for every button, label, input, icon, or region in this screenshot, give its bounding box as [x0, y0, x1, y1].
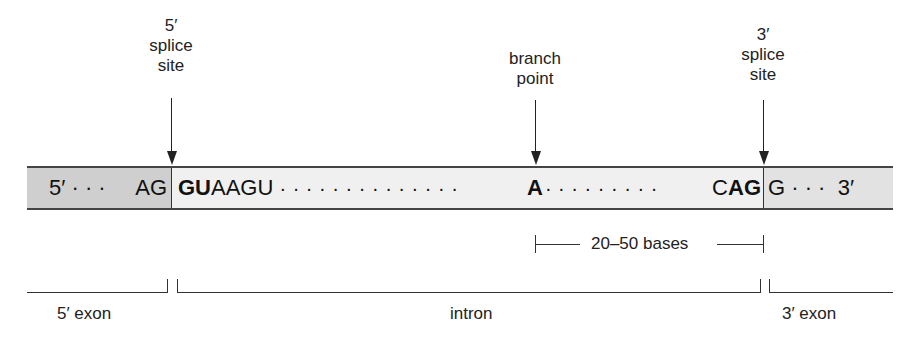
five-prime-arrow-shaft — [171, 98, 172, 154]
three-prime-junction-line — [763, 168, 765, 208]
exon-end-bases: AG — [135, 175, 169, 201]
three-prime-exon-label: 3′ exon — [782, 304, 836, 324]
intron-dots-before-branch: · · · · · · · · · · · · · · — [273, 177, 464, 200]
intron-sequence: GU AAGU · · · · · · · · · · · · · · — [178, 168, 464, 208]
branch-point-label: branch point — [490, 49, 580, 89]
label-line: 3′ — [723, 25, 803, 45]
intron-dots-after-branch: · · · · · · · · · — [545, 177, 664, 200]
acceptor-c: C — [712, 175, 728, 201]
three-prime-exon-bracket-start — [769, 279, 770, 293]
label-line: point — [490, 69, 580, 89]
five-prime-exon-bracket-end — [167, 279, 168, 293]
branch-point-adenine: A — [527, 175, 543, 201]
exon-start-base: G — [768, 175, 785, 201]
range-line-right — [717, 244, 763, 245]
five-prime-splice-site-label: 5′ splice site — [131, 16, 211, 76]
label-line: site — [723, 65, 803, 85]
five-prime-exon-sequence: 5′ · · · AG — [49, 168, 169, 208]
five-prime-exon-label: 5′ exon — [57, 304, 111, 324]
ag-acceptor-dinucleotide: AG — [728, 175, 761, 201]
pre-mrna-sequence-bar: 5′ · · · AG GU AAGU · · · · · · · · · · … — [27, 166, 893, 210]
range-label: 20–50 bases — [591, 234, 688, 254]
three-prime-arrow-head-icon — [759, 151, 769, 165]
label-line: branch — [490, 49, 580, 69]
range-end-tick — [763, 235, 764, 253]
intron-label: intron — [450, 304, 493, 324]
branch-point-base-wrap: A · · · · · · · · · — [527, 168, 664, 208]
label-line: 5′ — [131, 16, 211, 36]
label-line: site — [131, 56, 211, 76]
range-line-left — [535, 244, 580, 245]
five-prime-junction-line — [171, 168, 173, 208]
branch-point-arrow-head-icon — [531, 151, 541, 165]
label-line: splice — [723, 45, 803, 65]
three-prime-splice-site-label: 3′ splice site — [723, 25, 803, 85]
three-prime-arrow-shaft — [763, 100, 764, 154]
donor-consensus-rest: AAGU — [211, 175, 273, 201]
intron-bracket-end — [760, 279, 761, 293]
intron-bracket-start — [177, 279, 178, 293]
gu-donor-dinucleotide: GU — [178, 175, 211, 201]
branch-point-arrow-shaft — [535, 100, 536, 154]
acceptor-sequence: C AG — [697, 168, 761, 208]
label-line: splice — [131, 36, 211, 56]
five-prime-exon-bracket — [27, 292, 168, 293]
five-prime-arrow-head-icon — [167, 151, 177, 165]
three-prime-exon-bracket — [769, 292, 893, 293]
three-prime-end-marker: · · · 3′ — [785, 175, 854, 201]
intron-bracket — [177, 292, 761, 293]
five-prime-end-marker: 5′ · · · — [49, 175, 118, 201]
three-prime-exon-sequence: G · · · 3′ — [768, 168, 854, 208]
